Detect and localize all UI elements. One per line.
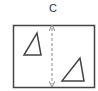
triangle-right xyxy=(62,58,84,81)
diagram-canvas: C xyxy=(0,0,98,91)
triangle-left xyxy=(24,33,41,55)
diagram-figure xyxy=(0,0,98,91)
bounding-box xyxy=(14,26,95,88)
